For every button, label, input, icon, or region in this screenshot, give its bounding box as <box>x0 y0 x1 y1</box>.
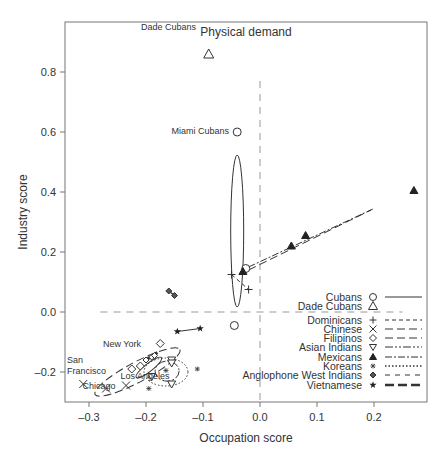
mexicans-line-2 <box>249 210 372 270</box>
diamond-marker <box>156 340 164 348</box>
dominicans-line <box>232 275 249 290</box>
scatter-chart: Dade CubansMiami CubansNew YorkSanFranci… <box>0 0 444 458</box>
annotation-label: Miami Cubans <box>171 126 229 136</box>
filled-triangle-marker <box>302 232 310 239</box>
legend-item: Dade Cubans <box>298 300 378 312</box>
annotation-label: San <box>67 355 83 365</box>
filled-triangle-marker <box>370 354 377 360</box>
x-tick-label: 0.0 <box>252 411 267 423</box>
cross-diamond-marker <box>370 372 376 378</box>
asterisk-marker <box>195 367 200 372</box>
legend-label: Dade Cubans <box>298 300 362 312</box>
cubans-ellipse <box>231 155 244 307</box>
x-marker <box>370 326 377 333</box>
x-tick-label: –0.1 <box>192 411 213 423</box>
triangle-marker <box>204 49 214 58</box>
legend: CubansDade CubansDominicansChineseFilipi… <box>243 291 422 391</box>
y-tick-label: 0.8 <box>41 66 56 78</box>
mexicans-line <box>249 209 374 268</box>
plus-marker <box>370 317 377 324</box>
series-dade-cubans <box>204 49 214 58</box>
vietnamese-line <box>177 329 200 332</box>
star-marker <box>369 381 376 388</box>
annotation-label: Dade Cubans <box>141 22 197 32</box>
x-tick-label: 0.1 <box>309 411 324 423</box>
star-marker <box>197 325 204 332</box>
circle-marker <box>230 322 238 330</box>
y-tick-label: 0.4 <box>41 186 56 198</box>
asterisk-marker <box>146 386 151 391</box>
legend-label: Vietnamese <box>307 379 362 391</box>
x-tick-label: –0.2 <box>135 411 156 423</box>
circle-marker <box>233 128 241 136</box>
plus-marker <box>245 286 253 294</box>
filled-triangle-marker <box>287 242 295 249</box>
y-tick-label: 0.6 <box>41 126 56 138</box>
circle-marker <box>370 294 377 301</box>
annotation-label: New York <box>103 339 142 349</box>
x-tick-label: –0.3 <box>78 411 99 423</box>
down-triangle-marker <box>168 381 176 388</box>
confidence-ellipses <box>90 155 243 403</box>
asterisk-marker <box>371 364 376 369</box>
annotations: Dade CubansMiami CubansNew YorkSanFranci… <box>67 22 229 391</box>
legend-item: Vietnamese <box>307 379 422 391</box>
filled-triangle-marker <box>410 187 418 194</box>
y-tick-label: 0.0 <box>41 306 56 318</box>
diamond-marker <box>370 335 377 342</box>
down-triangle-marker <box>370 345 377 351</box>
triangle-marker <box>369 302 378 310</box>
x-tick-label: 0.2 <box>366 411 381 423</box>
annotation-label: Los Angeles <box>120 371 170 381</box>
annotation-label: Francisco <box>67 366 106 376</box>
x-axis-label: Occupation score <box>199 431 293 445</box>
y-tick-label: 0.2 <box>41 246 56 258</box>
diamond-marker <box>136 362 144 370</box>
annotation-label: Chicago <box>82 381 115 391</box>
chart-title: Physical demand <box>200 25 291 39</box>
y-tick-label: –0.2 <box>35 366 56 378</box>
x-marker <box>122 382 130 390</box>
y-axis-label: Industry score <box>16 174 30 250</box>
star-marker <box>174 328 181 335</box>
